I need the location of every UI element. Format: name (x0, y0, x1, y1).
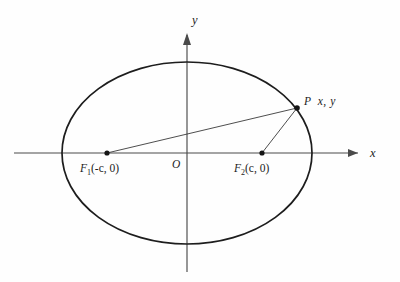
focus-1-dot (104, 150, 109, 155)
y-axis-arrowhead (183, 33, 191, 45)
focus-2-dot (259, 150, 264, 155)
x-axis-arrowhead (348, 149, 358, 157)
y-axis-label: y (190, 13, 198, 27)
point-p-coords: x, y (317, 95, 337, 108)
focal-radius-from-f1 (107, 108, 297, 153)
focus-2-coords: (c, 0) (245, 162, 269, 175)
focus-1-coords: (-c, 0) (91, 162, 119, 175)
focus-1-label: F1(-c, 0) (79, 162, 119, 177)
x-axis-label: x (369, 146, 376, 160)
origin-label: O (172, 158, 181, 170)
point-p-label: Px, y (303, 95, 336, 108)
figure-container: y x O F1(-c, 0) F2(c, 0) Px, y (0, 0, 400, 282)
ellipse-diagram: y x O F1(-c, 0) F2(c, 0) Px, y (0, 0, 400, 282)
point-p-dot (294, 105, 300, 111)
focus-2-label: F2(c, 0) (233, 162, 269, 177)
point-p-symbol: P (303, 95, 312, 107)
